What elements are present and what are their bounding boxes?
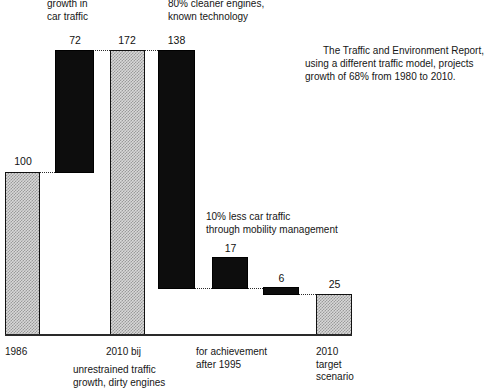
axis-label-unrestrained: unrestrained traffic growth, dirty engin… xyxy=(73,364,208,389)
connector-bar6-bar7 xyxy=(298,294,318,295)
value-label-bar7: 25 xyxy=(316,278,353,290)
value-label-bar3: 172 xyxy=(108,34,146,46)
bar-mobility-management xyxy=(212,257,248,289)
bar-cleaner-engines xyxy=(158,50,195,289)
value-label-bar1: 100 xyxy=(5,155,41,167)
axis-label-target-scenario: 2010 target scenario xyxy=(316,346,386,384)
value-label-bar2: 72 xyxy=(55,34,95,46)
value-label-bar4: 138 xyxy=(157,34,196,46)
side-note-traffic-environment-report: The Traffic and Environment Report, usin… xyxy=(305,44,500,83)
bar-growth-car-traffic xyxy=(55,50,94,173)
axis-label-achievement: for achievement after 1995 xyxy=(196,346,306,371)
value-label-bar6: 6 xyxy=(263,272,300,284)
bar-1986 xyxy=(5,172,40,335)
bar-2010-target xyxy=(316,294,352,335)
axis-label-1986: 1986 xyxy=(5,346,65,359)
bar-2010-bij xyxy=(110,50,145,335)
bar-achievement xyxy=(263,287,299,295)
value-label-bar5: 17 xyxy=(212,242,249,254)
connector-bar4-bar5 xyxy=(194,288,214,289)
annotation-cleaner-engines: 80% cleaner engines, known technology xyxy=(168,0,298,23)
baseline-axis xyxy=(5,334,352,336)
annotation-growth-car-traffic: growth in car traffic xyxy=(47,0,142,23)
annotation-mobility-management: 10% less car traffic through mobility ma… xyxy=(206,211,371,236)
axis-label-2010-bij: 2010 bij xyxy=(106,346,176,359)
